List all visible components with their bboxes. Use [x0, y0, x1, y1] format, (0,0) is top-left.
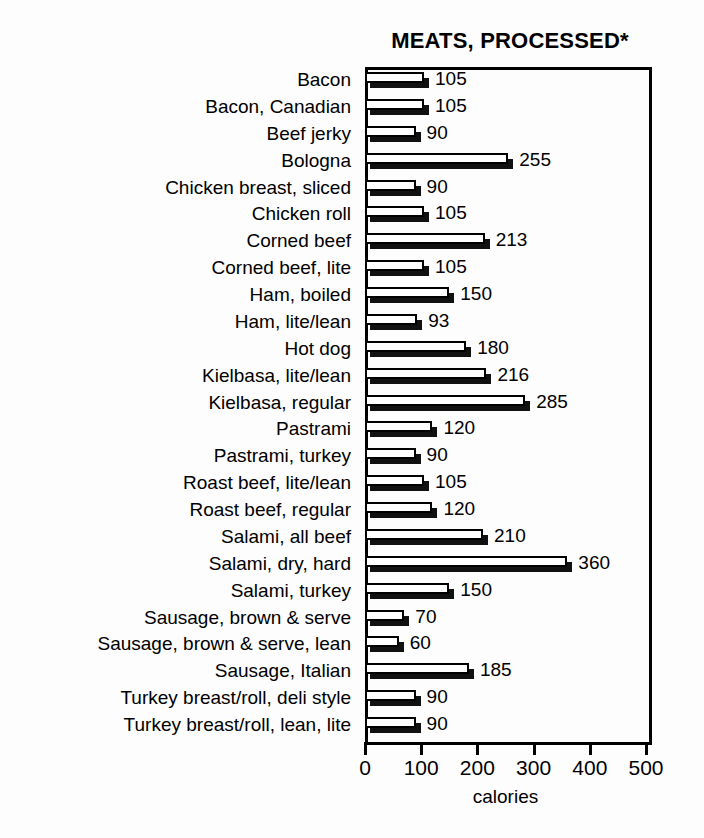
x-axis-tick-label: 200 [460, 757, 495, 778]
bar [365, 502, 432, 513]
bar [365, 663, 469, 674]
bar-value-label: 185 [480, 660, 512, 679]
bar-row: 90 [365, 121, 646, 148]
bar-row: 255 [365, 148, 646, 175]
bar-value-label: 105 [435, 472, 467, 491]
category-label: Hot dog [284, 339, 351, 358]
bar [365, 287, 449, 298]
bar-row: 90 [365, 712, 646, 739]
bar-row: 180 [365, 336, 646, 363]
category-label: Corned beef [246, 231, 351, 250]
bar-row: 150 [365, 282, 646, 309]
category-label: Chicken breast, sliced [165, 178, 351, 197]
bar-value-label: 180 [477, 338, 509, 357]
bar-row: 120 [365, 497, 646, 524]
bar-value-label: 210 [494, 526, 526, 545]
bar-row: 60 [365, 631, 646, 658]
bar-row: 105 [365, 470, 646, 497]
bar-value-label: 90 [427, 177, 448, 196]
bar [365, 583, 449, 594]
bar [365, 99, 424, 110]
bar-chart-figure: MEATS, PROCESSED* BaconBacon, CanadianBe… [0, 0, 704, 838]
category-label: Salami, dry, hard [209, 554, 351, 573]
bar-value-label: 105 [435, 203, 467, 222]
chart-title: MEATS, PROCESSED* [360, 28, 660, 54]
bar-row: 90 [365, 175, 646, 202]
category-label: Sausage, brown & serve [144, 608, 351, 627]
bar [365, 368, 486, 379]
category-label: Sausage, brown & serve, lean [98, 634, 352, 653]
bar-value-label: 90 [427, 123, 448, 142]
x-axis-tick [364, 742, 367, 755]
x-axis-tick-label: 500 [628, 757, 663, 778]
bar [365, 636, 399, 647]
bar [365, 529, 483, 540]
category-label: Bologna [281, 151, 351, 170]
bar-value-label: 150 [460, 284, 492, 303]
category-label: Ham, lite/lean [235, 312, 351, 331]
bar [365, 341, 466, 352]
category-label: Chicken roll [252, 204, 351, 223]
bar-value-label: 70 [415, 607, 436, 626]
bar-value-label: 216 [497, 365, 529, 384]
bar-value-label: 105 [435, 96, 467, 115]
bar-row: 150 [365, 578, 646, 605]
x-axis-tick [533, 742, 536, 755]
category-label: Turkey breast/roll, lean, lite [124, 715, 351, 734]
x-axis-tick-label: 300 [516, 757, 551, 778]
bar-row: 210 [365, 524, 646, 551]
category-label: Pastrami, turkey [214, 446, 351, 465]
bar-row: 285 [365, 390, 646, 417]
bar [365, 206, 424, 217]
bar-row: 185 [365, 658, 646, 685]
bar-value-label: 120 [443, 418, 475, 437]
bar [365, 314, 417, 325]
category-label: Sausage, Italian [215, 661, 351, 680]
bar-value-label: 255 [519, 150, 551, 169]
category-label: Roast beef, lite/lean [183, 473, 351, 492]
bar-value-label: 150 [460, 580, 492, 599]
bar-row: 120 [365, 416, 646, 443]
category-label: Salami, all beef [221, 527, 351, 546]
bar [365, 260, 424, 271]
bar-value-label: 285 [536, 392, 568, 411]
x-axis-title: calories [365, 786, 646, 808]
bar-row: 90 [365, 685, 646, 712]
bar-row: 105 [365, 94, 646, 121]
bar-value-label: 105 [435, 257, 467, 276]
x-axis-tick-label: 400 [572, 757, 607, 778]
bar [365, 448, 416, 459]
bar-row: 70 [365, 605, 646, 632]
bar-value-label: 60 [410, 633, 431, 652]
bar-row: 90 [365, 443, 646, 470]
bar [365, 690, 416, 701]
bar-value-label: 213 [496, 230, 528, 249]
x-axis-tick-label: 100 [404, 757, 439, 778]
category-label: Turkey breast/roll, deli style [120, 688, 351, 707]
bar [365, 395, 525, 406]
bar [365, 180, 416, 191]
category-label: Kielbasa, lite/lean [202, 366, 351, 385]
bar-value-label: 93 [428, 311, 449, 330]
bar-row: 105 [365, 255, 646, 282]
category-label: Beef jerky [267, 124, 351, 143]
category-label: Pastrami [276, 419, 351, 438]
bar [365, 610, 404, 621]
bar-row: 105 [365, 201, 646, 228]
bar-value-label: 90 [427, 445, 448, 464]
category-label: Bacon [297, 70, 351, 89]
bar [365, 72, 424, 83]
bar-value-label: 90 [427, 714, 448, 733]
bar-value-label: 105 [435, 69, 467, 88]
x-axis-tick [645, 742, 648, 755]
bar [365, 717, 416, 728]
category-label: Corned beef, lite [212, 258, 351, 277]
x-axis-tick [589, 742, 592, 755]
category-label: Salami, turkey [231, 581, 351, 600]
bar-value-label: 120 [443, 499, 475, 518]
category-axis-labels: BaconBacon, CanadianBeef jerkyBolognaChi… [0, 67, 358, 739]
category-label: Bacon, Canadian [205, 97, 351, 116]
x-axis-tick-label: 0 [359, 757, 371, 778]
bar-row: 360 [365, 551, 646, 578]
bars-layer: 1051059025590105213105150931802162851209… [365, 67, 646, 739]
